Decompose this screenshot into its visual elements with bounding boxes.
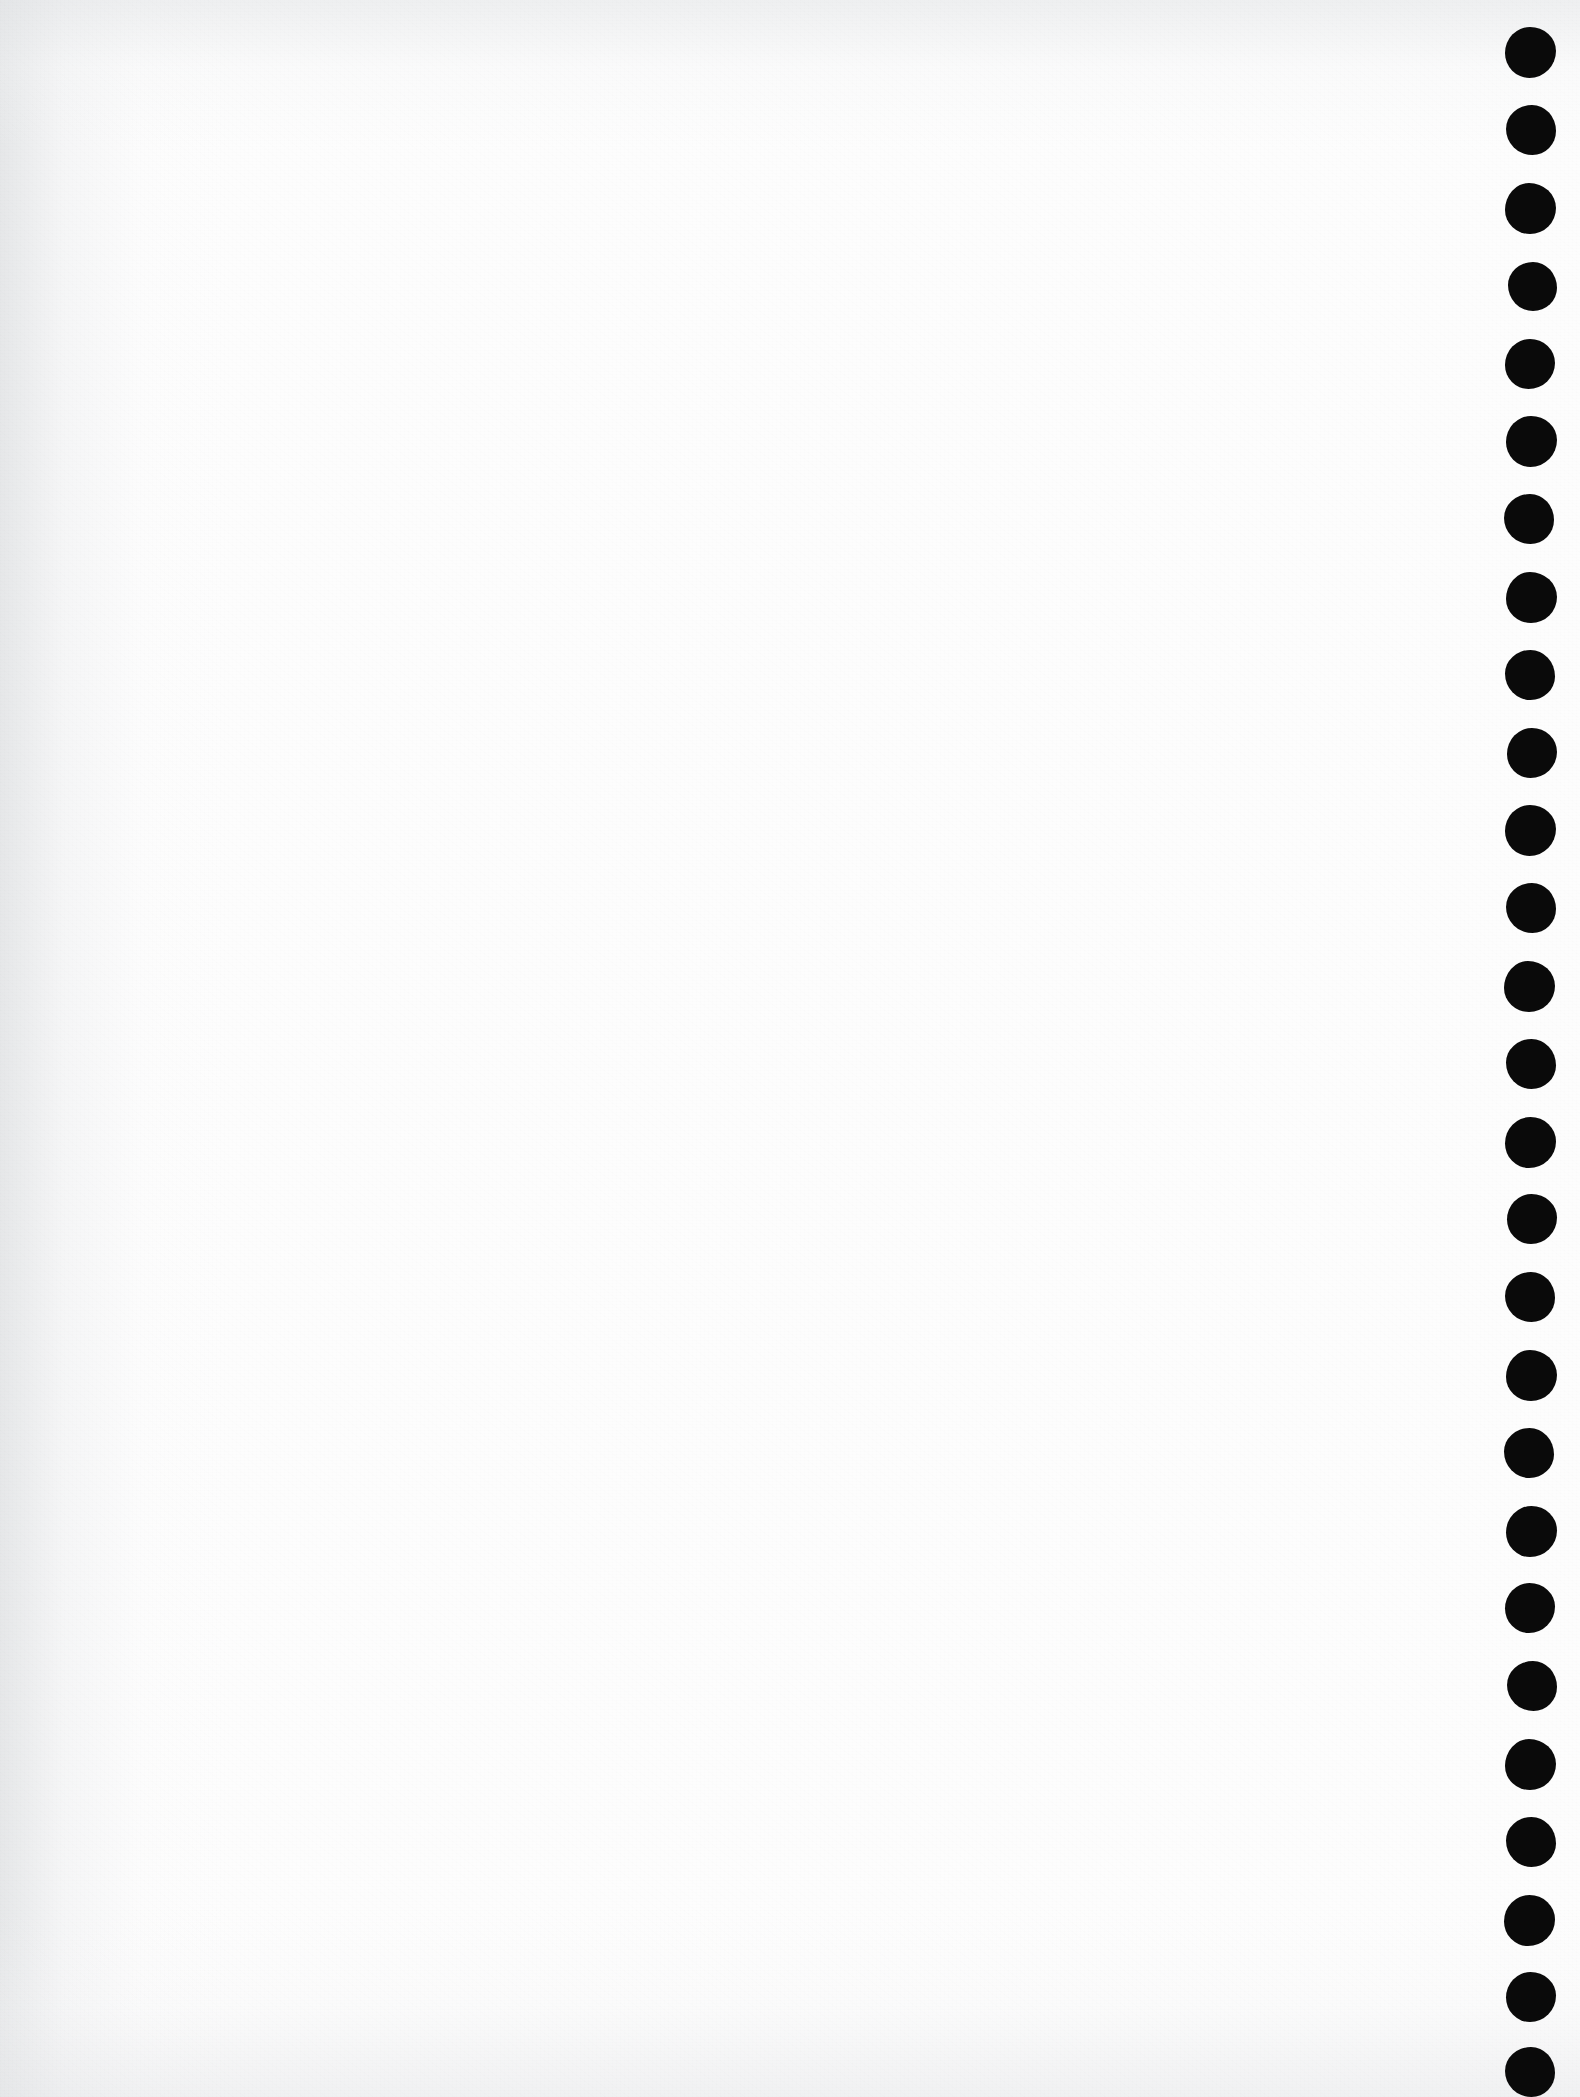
ink-dot bbox=[1508, 262, 1557, 311]
ink-dot bbox=[1506, 1817, 1556, 1867]
ink-dot bbox=[1506, 1350, 1557, 1401]
ink-dot bbox=[1504, 1895, 1555, 1946]
paper-background bbox=[0, 0, 1580, 2097]
ink-dot bbox=[1504, 1428, 1554, 1478]
ink-dot bbox=[1506, 1039, 1556, 1089]
ink-dot bbox=[1506, 105, 1556, 155]
ink-dot bbox=[1504, 961, 1555, 1012]
ink-dot bbox=[1504, 494, 1554, 544]
ink-dot bbox=[1507, 1661, 1557, 1711]
ink-dot bbox=[1505, 650, 1555, 700]
ink-dot bbox=[1505, 2047, 1555, 2097]
ink-dot bbox=[1505, 27, 1556, 78]
ink-dot bbox=[1506, 572, 1557, 623]
ink-dot bbox=[1505, 183, 1556, 234]
scanned-page bbox=[0, 0, 1580, 2097]
ink-dot bbox=[1506, 1506, 1557, 1557]
ink-dot bbox=[1505, 1739, 1556, 1790]
ink-dot bbox=[1505, 805, 1556, 856]
ink-dot bbox=[1506, 416, 1557, 467]
ink-dot bbox=[1505, 1117, 1556, 1168]
ink-dot bbox=[1505, 1272, 1555, 1322]
ink-dot bbox=[1506, 883, 1556, 933]
